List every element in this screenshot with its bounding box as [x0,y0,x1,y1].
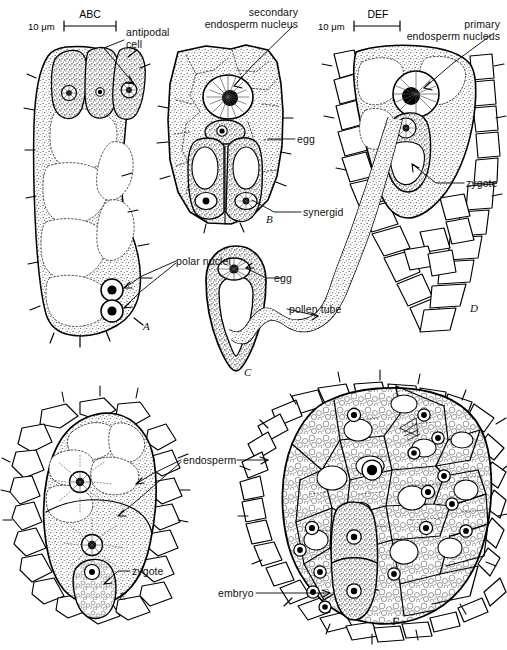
panel-f-cellular-endosperm [238,370,507,644]
panel-a-embryo-sac [24,46,152,347]
label-pollen-tube: pollen tube [289,303,341,315]
label-secondary-endosperm-nucleus: secondary endosperm nucleus [158,6,298,30]
zygote-cell-e [73,559,116,618]
label-synergid: synergid [303,206,344,218]
label-primary-endosperm-nucleus: primary endosperm nucleus [360,18,500,42]
figure-artwork [0,0,507,650]
scale-bar-def-unit: 10 μm [318,21,345,32]
label-zygote-d: zygote [466,177,498,189]
panel-letter-f: F [392,615,399,627]
panel-letter-b: B [266,213,273,225]
label-egg-c: egg [274,272,292,284]
scale-bar-abc-name: ABC [60,8,120,20]
panel-letter-c: C [244,366,251,378]
panel-letter-d: D [470,302,478,314]
embryo-cell-group [331,502,377,620]
synergid-cells [188,138,262,224]
panel-letter-e: E [119,590,126,602]
scale-bar-abc-rule [64,21,116,31]
secondary-endosperm-nucleus-shape [203,75,253,119]
panel-letter-a: A [143,320,150,332]
label-polar-nuclei: polar nuclei [176,255,231,267]
figure-plate: 10 μm ABC 10 μm DEF antipodal cell secon… [0,0,507,650]
label-egg-b: egg [297,133,315,145]
scale-bar-abc-unit: 10 μm [28,21,55,32]
primary-endosperm-nucleus-shape [393,71,439,117]
panel-e-endosperm-zygote [1,386,190,624]
label-endosperm: endosperm [183,454,236,466]
label-zygote-e: zygote [132,565,164,577]
label-embryo: embryo [218,587,254,599]
